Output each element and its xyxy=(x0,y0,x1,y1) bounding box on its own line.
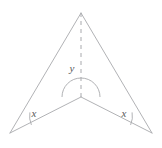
label-reflex-angle-y: y xyxy=(69,62,75,74)
geometry-figure-container: y x x xyxy=(0,0,162,148)
label-right-base-angle-x: x xyxy=(121,107,127,119)
geometry-diagram: y x x xyxy=(0,0,162,148)
label-left-base-angle-x: x xyxy=(31,107,37,119)
